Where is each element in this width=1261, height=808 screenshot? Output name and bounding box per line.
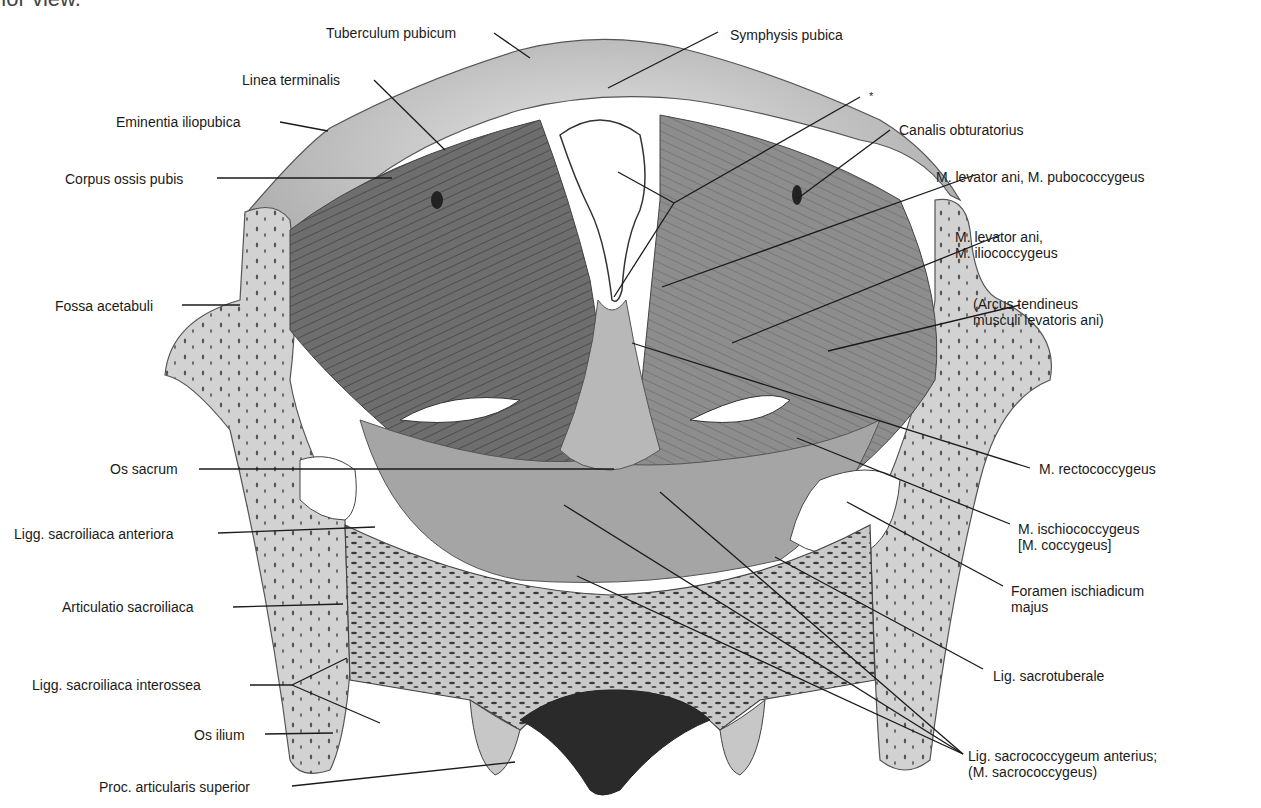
label-arcus-line1: (Arcus tendineus (973, 296, 1104, 312)
label-sacrococcygeum-line2: (M. sacrococcygeus) (968, 764, 1157, 780)
label-iliococcygeus-line1: M. levator ani, (955, 229, 1058, 245)
label-linea-terminalis: Linea terminalis (242, 72, 340, 88)
label-lig-sacrococcygeum-anterius: Lig. sacrococcygeum anterius; (M. sacroc… (968, 748, 1157, 780)
label-eminentia-iliopubica: Eminentia iliopubica (116, 114, 241, 130)
label-articulatio-sacroiliaca: Articulatio sacroiliaca (62, 599, 194, 615)
label-tuberculum-pubicum: Tuberculum pubicum (326, 25, 456, 41)
label-ischiococcygeus-line1: M. ischiococcygeus (1018, 521, 1139, 537)
anatomy-figure: rior view. (0, 0, 1261, 808)
label-iliococcygeus: M. levator ani, M. iliococcygeus (955, 229, 1058, 261)
label-ligg-sacroiliaca-interossea: Ligg. sacroiliaca interossea (32, 677, 201, 693)
sacral-canal (520, 690, 710, 795)
label-ligg-sacroiliaca-anteriora: Ligg. sacroiliaca anteriora (14, 526, 174, 542)
label-foramen-ischiadicum-majus: Foramen ischiadicum majus (1011, 583, 1144, 615)
label-os-ilium: Os ilium (194, 727, 245, 743)
label-sacrococcygeum-line1: Lig. sacrococcygeum anterius; (968, 748, 1157, 764)
label-os-sacrum: Os sacrum (110, 461, 178, 477)
label-rectococcygeus: M. rectococcygeus (1039, 461, 1156, 477)
label-foramen-line1: Foramen ischiadicum (1011, 583, 1144, 599)
label-corpus-ossis-pubis: Corpus ossis pubis (65, 171, 183, 187)
label-fossa-acetabuli: Fossa acetabuli (55, 298, 153, 314)
label-iliococcygeus-line2: M. iliococcygeus (955, 245, 1058, 261)
obturator-canal-left (431, 191, 443, 209)
label-asterisk: * (869, 88, 873, 104)
label-symphysis-pubica: Symphysis pubica (730, 27, 843, 43)
label-ischiococcygeus-line2: [M. coccygeus] (1018, 537, 1139, 553)
label-lig-sacrotuberale: Lig. sacrotuberale (993, 668, 1104, 684)
label-arcus-line2: musculi levatoris ani) (973, 312, 1104, 328)
label-ischiococcygeus: M. ischiococcygeus [M. coccygeus] (1018, 521, 1139, 553)
label-arcus-tendineus: (Arcus tendineus musculi levatoris ani) (973, 296, 1104, 328)
label-foramen-line2: majus (1011, 599, 1144, 615)
label-canalis-obturatorius: Canalis obturatorius (899, 122, 1024, 138)
label-pubococcygeus: M. levator ani, M. pubococcygeus (936, 169, 1145, 185)
obturator-canal-right (792, 185, 802, 205)
label-proc-articularis-superior: Proc. articularis superior (99, 779, 250, 795)
